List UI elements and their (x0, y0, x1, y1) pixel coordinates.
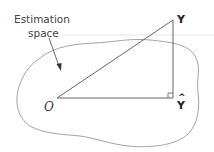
callout-label-line1: Estimation (14, 14, 70, 25)
point-label-y: Y (177, 14, 185, 25)
callout-arrowhead-icon (57, 63, 62, 71)
right-angle-marker-icon (168, 93, 173, 98)
callout-label-line2: space (28, 28, 59, 39)
point-label-origin: O (44, 101, 54, 113)
point-label-y-hat: Y (177, 100, 185, 111)
projection-diagram: Estimation space Y ^ Y O (0, 0, 214, 152)
callout-arrow-line (49, 38, 59, 66)
hypotenuse-O-Y (57, 20, 173, 98)
